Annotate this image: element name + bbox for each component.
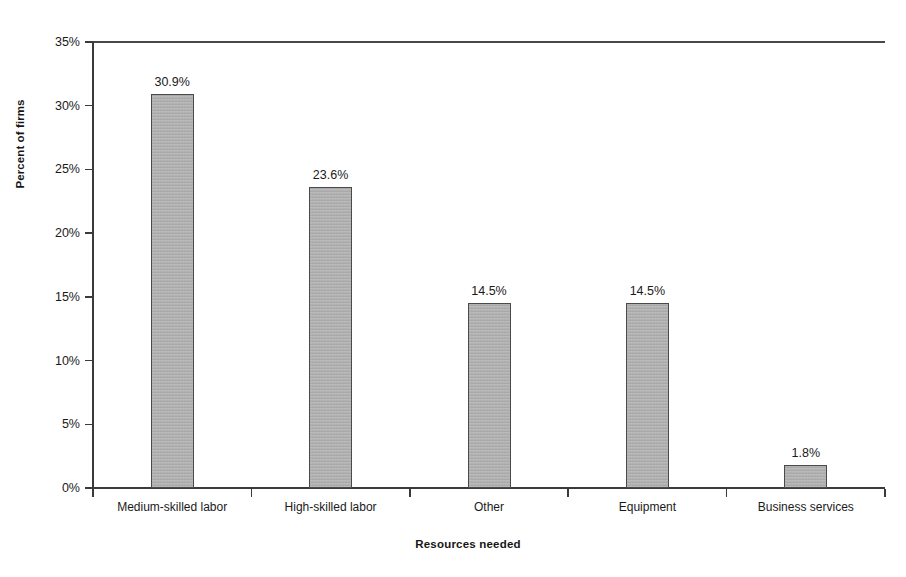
plot-top-rule <box>92 41 885 43</box>
bar-value-label: 14.5% <box>630 284 665 298</box>
x-axis-title: Resources needed <box>0 538 906 550</box>
x-axis-category-label: High-skilled labor <box>285 500 377 514</box>
bar-value-label: 30.9% <box>154 75 189 89</box>
y-axis-line <box>92 42 94 489</box>
y-axis-title: Percent of firms <box>14 64 34 224</box>
y-axis-tick <box>85 169 93 171</box>
bar <box>626 303 669 488</box>
bar-chart: Percent of firms 0%5%10%15%20%25%30%35% … <box>0 0 906 577</box>
y-axis-tick <box>85 360 93 362</box>
y-axis-tick-label: 30% <box>0 99 80 113</box>
bar-value-label: 14.5% <box>471 284 506 298</box>
x-axis-category-label: Other <box>474 500 504 514</box>
x-axis-tick <box>251 489 253 497</box>
x-axis-tick <box>92 489 94 497</box>
y-axis-tick <box>85 296 93 298</box>
y-axis-tick <box>85 105 93 107</box>
x-axis-tick <box>884 489 886 497</box>
bar <box>151 94 194 488</box>
y-axis-tick-label: 25% <box>0 162 80 176</box>
x-axis-category-label: Medium-skilled labor <box>117 500 227 514</box>
y-axis-tick <box>85 41 93 43</box>
bar-value-label: 1.8% <box>792 446 821 460</box>
bar <box>468 303 511 488</box>
x-axis-tick <box>726 489 728 497</box>
x-axis-category-label: Business services <box>758 500 854 514</box>
y-axis-tick-label: 10% <box>0 354 80 368</box>
y-axis-tick-label: 5% <box>0 417 80 431</box>
x-axis-tick <box>567 489 569 497</box>
y-axis-tick <box>85 424 93 426</box>
y-axis-tick <box>85 232 93 234</box>
y-axis-tick-label: 15% <box>0 290 80 304</box>
y-axis-tick-label: 20% <box>0 226 80 240</box>
bar-value-label: 23.6% <box>313 168 348 182</box>
x-axis-category-label: Equipment <box>619 500 676 514</box>
x-axis-tick <box>409 489 411 497</box>
y-axis-tick-label: 0% <box>0 481 80 495</box>
y-axis-tick-label: 35% <box>0 35 80 49</box>
bar <box>309 187 352 488</box>
bar <box>784 465 827 488</box>
